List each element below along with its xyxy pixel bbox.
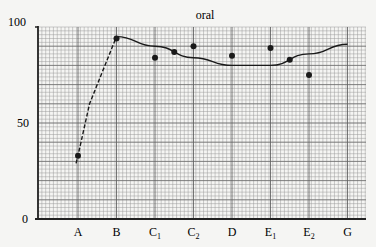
- x-category-label: G: [343, 225, 352, 239]
- x-category-label: A: [74, 225, 83, 239]
- chart-title: oral: [196, 8, 215, 22]
- data-point: [229, 53, 235, 59]
- x-category-label: E2: [303, 225, 314, 241]
- chart-grid: [38, 27, 366, 219]
- data-point: [75, 153, 81, 159]
- x-category-label: E1: [265, 225, 276, 241]
- data-point: [152, 55, 158, 61]
- x-category-label: B: [112, 225, 120, 239]
- data-point: [287, 57, 293, 63]
- data-point: [306, 72, 312, 78]
- x-category-label: C1: [149, 225, 161, 241]
- data-point: [191, 43, 197, 49]
- chart-labels: 050100ABC1C2DE1E2G: [8, 15, 352, 241]
- x-category-label: D: [228, 225, 237, 239]
- y-tick-label: 100: [8, 15, 26, 29]
- data-point: [268, 45, 274, 51]
- chart: 050100ABC1C2DE1E2G oral: [0, 0, 376, 247]
- data-point: [114, 36, 120, 42]
- y-tick-label: 50: [17, 116, 29, 130]
- data-point: [171, 49, 177, 55]
- x-category-label: C2: [187, 225, 199, 241]
- y-tick-label: 0: [22, 212, 28, 226]
